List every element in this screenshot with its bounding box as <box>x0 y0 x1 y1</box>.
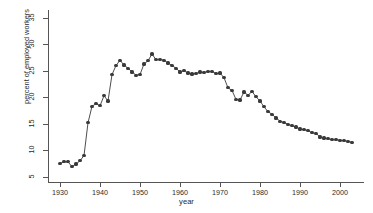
data-point <box>126 67 129 70</box>
data-point <box>278 120 281 123</box>
data-point <box>198 70 201 73</box>
data-point <box>130 70 133 73</box>
data-point <box>134 74 137 77</box>
data-point <box>170 64 173 67</box>
data-point <box>314 132 317 135</box>
data-point <box>70 165 73 168</box>
data-point <box>226 86 229 89</box>
data-point <box>306 129 309 132</box>
data-point <box>350 141 353 144</box>
data-point <box>166 61 169 64</box>
data-point <box>118 59 121 62</box>
data-point <box>82 154 85 157</box>
data-point <box>74 162 77 165</box>
data-point <box>346 140 349 143</box>
data-point <box>62 160 65 163</box>
data-point <box>174 67 177 70</box>
data-point <box>238 98 241 101</box>
data-point <box>242 90 245 93</box>
data-point <box>218 71 221 74</box>
data-point <box>158 58 161 61</box>
data-point <box>110 73 113 76</box>
chart-figure: percent of employed workers 353025201510… <box>0 0 373 213</box>
data-point <box>322 136 325 139</box>
data-point <box>338 139 341 142</box>
data-point <box>222 76 225 79</box>
data-point <box>326 137 329 140</box>
data-point <box>150 52 153 55</box>
data-point <box>162 59 165 62</box>
data-point <box>66 160 69 163</box>
data-point <box>78 159 81 162</box>
data-point <box>274 116 277 119</box>
data-point <box>206 70 209 73</box>
data-point <box>334 138 337 141</box>
data-point <box>282 121 285 124</box>
data-point <box>302 128 305 131</box>
data-point <box>154 58 157 61</box>
data-point <box>318 135 321 138</box>
data-point <box>186 71 189 74</box>
data-point <box>294 125 297 128</box>
data-point <box>330 138 333 141</box>
data-point <box>270 113 273 116</box>
data-point <box>102 94 105 97</box>
data-point <box>254 95 257 98</box>
data-point <box>190 72 193 75</box>
data-point <box>58 162 61 165</box>
data-point <box>94 102 97 105</box>
data-point <box>310 131 313 134</box>
data-point <box>214 72 217 75</box>
data-point <box>342 139 345 142</box>
data-point <box>90 105 93 108</box>
data-point <box>86 121 89 124</box>
data-point <box>266 110 269 113</box>
data-point <box>246 94 249 97</box>
data-point <box>290 124 293 127</box>
data-point <box>106 99 109 102</box>
data-point <box>250 90 253 93</box>
data-point <box>210 70 213 73</box>
data-point <box>262 105 265 108</box>
data-point <box>286 123 289 126</box>
data-point <box>138 73 141 76</box>
data-point <box>122 63 125 66</box>
data-point <box>182 69 185 72</box>
data-point <box>230 89 233 92</box>
data-point <box>142 62 145 65</box>
data-point <box>202 71 205 74</box>
data-point <box>146 59 149 62</box>
data-point <box>258 99 261 102</box>
data-point <box>194 72 197 75</box>
x-axis-title: year <box>0 197 373 206</box>
data-point <box>298 127 301 130</box>
data-point <box>234 98 237 101</box>
data-point <box>114 64 117 67</box>
series-markers <box>0 0 373 213</box>
data-point <box>98 104 101 107</box>
data-point <box>178 70 181 73</box>
